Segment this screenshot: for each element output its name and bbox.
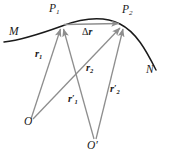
label-delta-r-text: r (88, 26, 92, 37)
label-point-p2-sub: 2 (129, 9, 133, 17)
vector-r1-prime (64, 29, 95, 139)
trajectory-curve (4, 19, 156, 70)
label-vector-r2: r2 (86, 63, 93, 74)
label-origin-o: O (24, 116, 32, 128)
label-vector-r2-prime: r′2 (110, 84, 120, 96)
label-displacement-delta-r: Δr (82, 27, 92, 37)
label-curve-end-n: N (146, 64, 154, 76)
position-vector-diagram: P1 P2 M N Δr r1 r2 r′1 r′2 O O′ (0, 0, 170, 164)
label-point-p2-text: P (122, 3, 129, 15)
label-point-p2: P2 (122, 4, 133, 17)
label-vector-r1-sub: 1 (39, 53, 42, 60)
label-curve-start-m: M (9, 26, 19, 38)
label-vector-r1-prime-sub: 1 (75, 98, 78, 105)
label-point-p1-sub: 1 (56, 8, 60, 16)
displacement-vector-delta-r (64, 24, 119, 25)
label-origin-o-prime: O′ (87, 140, 98, 152)
label-point-p1-text: P (49, 2, 56, 14)
diagram-canvas (0, 0, 170, 164)
label-origin-o-prime-mark: ′ (95, 139, 98, 151)
label-vector-r2-sub: 2 (90, 67, 93, 74)
label-vector-r1-prime: r′1 (68, 94, 78, 106)
label-point-p1: P1 (49, 3, 60, 16)
label-vector-r1: r1 (35, 49, 42, 60)
label-vector-r2-prime-sub: 2 (117, 88, 120, 95)
